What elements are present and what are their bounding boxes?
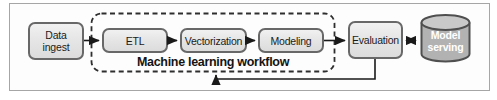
node-model-serving: Model serving bbox=[420, 13, 471, 64]
node-etl: ETL bbox=[102, 28, 168, 53]
node-label: Data bbox=[45, 29, 66, 41]
node-label: ingest bbox=[43, 41, 70, 53]
node-modeling: Modeling bbox=[258, 28, 324, 53]
node-data-ingest: Data ingest bbox=[28, 22, 84, 60]
node-vectorization: Vectorization bbox=[180, 28, 247, 53]
node-label: Model serving bbox=[420, 30, 471, 53]
workflow-group-label: Machine learning workflow bbox=[95, 55, 331, 69]
node-label: Evaluation bbox=[352, 34, 399, 46]
node-label: Modeling bbox=[270, 35, 311, 47]
ml-workflow-diagram: Data ingest ETL Vectorization Modeling E… bbox=[0, 0, 497, 100]
node-evaluation: Evaluation bbox=[348, 21, 403, 59]
node-label: ETL bbox=[126, 35, 145, 47]
node-label: Vectorization bbox=[185, 35, 243, 47]
